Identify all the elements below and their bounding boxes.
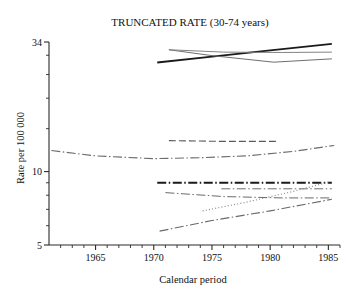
series-low-dashdot-steep-rising	[160, 199, 332, 231]
series-upper-rising-solid-thick	[157, 44, 332, 63]
x-tick-label: 1980	[260, 252, 280, 263]
data-series-group	[51, 44, 334, 231]
series-low-dotted-rising	[203, 182, 331, 211]
x-tick-label: 1975	[202, 252, 222, 263]
y-tick-label: 34	[32, 37, 42, 48]
x-axis-label: Calendar period	[159, 274, 227, 285]
y-axis-tick-labels: 51034	[32, 37, 42, 251]
x-axis-ticks	[61, 245, 340, 250]
series-low-declining-dashdot	[165, 193, 331, 198]
x-tick-label: 1965	[86, 252, 106, 263]
chart-figure: TRUNCATED RATE (30-74 years) Rate per 10…	[0, 0, 348, 296]
axis-lines	[49, 42, 340, 245]
x-tick-label: 1970	[144, 252, 164, 263]
y-axis-ticks	[44, 42, 49, 245]
x-axis-tick-labels: 19651970197519801985	[86, 252, 339, 263]
y-tick-label: 10	[32, 166, 42, 177]
truncated-rate-line-chart: TRUNCATED RATE (30-74 years) Rate per 10…	[0, 0, 348, 296]
series-mid-dashed-flat	[169, 141, 276, 142]
x-tick-label: 1985	[318, 252, 338, 263]
series-upper-flat-grey	[169, 50, 332, 53]
y-tick-label: 5	[37, 240, 42, 251]
y-axis-label: Rate per 100 000	[15, 112, 26, 184]
series-mid-long-dashdot-curve	[51, 145, 334, 158]
chart-title: TRUNCATED RATE (30-74 years)	[111, 16, 269, 29]
